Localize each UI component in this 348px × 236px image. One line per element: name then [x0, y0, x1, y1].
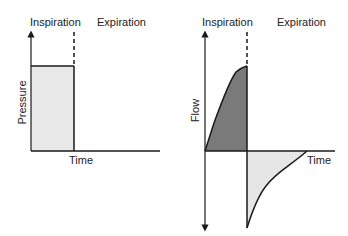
flow-y-label: Flow	[190, 96, 201, 126]
pressure-expiration-label: Expiration	[97, 17, 146, 28]
flow-chart	[205, 32, 335, 228]
pressure-area	[31, 66, 74, 151]
expiratory-flow-area	[247, 151, 307, 228]
pressure-x-label: Time	[69, 155, 93, 166]
flow-inspiration-label: Inspiration	[202, 17, 253, 28]
flow-x-label: Time	[307, 155, 331, 166]
inspiratory-flow-area	[205, 66, 247, 151]
pressure-chart	[31, 32, 160, 151]
ventilation-waveforms-diagram	[0, 0, 348, 236]
pressure-inspiration-label: Inspiration	[30, 17, 81, 28]
flow-expiration-label: Expiration	[277, 17, 326, 28]
pressure-y-label: Pressure	[17, 81, 28, 125]
